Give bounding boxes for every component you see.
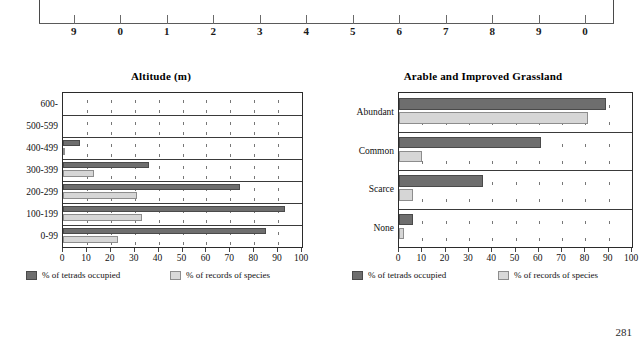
bar: [399, 137, 541, 149]
chart-legend: % of tetrads occupied % of records of sp…: [0, 270, 322, 288]
axis-tick-label: 0: [105, 25, 135, 37]
x-axis-tick: [134, 248, 135, 252]
grid-tick: [111, 176, 112, 179]
row-divider: [399, 132, 632, 133]
grid-tick: [87, 100, 88, 103]
grid-tick: [539, 182, 540, 185]
y-axis-category-label: None: [373, 223, 394, 233]
x-axis-tick-label: 10: [73, 253, 99, 263]
grid-tick: [254, 188, 255, 191]
grid-tick: [87, 110, 88, 113]
row-divider: [63, 203, 302, 204]
grid-tick: [206, 110, 207, 113]
grid-tick: [609, 199, 610, 202]
grid-tick: [585, 161, 586, 164]
grid-tick: [206, 198, 207, 201]
axis-tick: [213, 15, 214, 24]
grid-tick: [183, 198, 184, 201]
grid-tick: [422, 221, 423, 224]
axis-tick-label: 9: [524, 25, 554, 37]
grid-tick: [562, 144, 563, 147]
grid-tick: [562, 161, 563, 164]
grid-tick: [254, 154, 255, 157]
grid-tick: [254, 220, 255, 223]
grid-tick: [254, 100, 255, 103]
bar: [399, 228, 404, 240]
grid-tick: [278, 144, 279, 147]
axis-tick-label: 1: [152, 25, 182, 37]
bar: [63, 214, 142, 221]
grid-tick: [135, 144, 136, 147]
grid-tick: [254, 242, 255, 245]
grid-tick: [183, 220, 184, 223]
x-axis-tick: [515, 248, 516, 252]
grid-tick: [87, 144, 88, 147]
x-axis-tick-label: 100: [288, 253, 314, 263]
x-axis-tick-label: 50: [502, 253, 528, 263]
plot-area: AbundantCommonScarceNone: [398, 92, 633, 248]
axis-tick: [399, 15, 400, 24]
grid-tick: [585, 221, 586, 224]
legend-item-records: % of records of species: [170, 270, 270, 280]
grid-tick: [539, 161, 540, 164]
legend-label-tetrads: % of tetrads occupied: [368, 270, 446, 280]
grid-tick: [159, 198, 160, 201]
bar: [63, 140, 80, 147]
bar: [63, 170, 94, 177]
x-axis-tick: [277, 248, 278, 252]
chart-title: Arable and Improved Grassland: [322, 70, 644, 82]
grid-tick: [159, 100, 160, 103]
bar: [63, 228, 266, 235]
grid-tick: [135, 122, 136, 125]
legend-swatch-dark-icon: [352, 271, 363, 280]
grid-tick: [159, 144, 160, 147]
grid-tick: [492, 161, 493, 164]
x-axis-tick-label: 20: [97, 253, 123, 263]
axis-tick-label: 4: [291, 25, 321, 37]
axis-tick: [260, 15, 261, 24]
grid-tick: [111, 122, 112, 125]
grid-tick: [159, 154, 160, 157]
x-axis-tick: [421, 248, 422, 252]
grid-tick: [230, 176, 231, 179]
x-axis-tick-label: 0: [49, 253, 75, 263]
legend-label-records: % of records of species: [514, 270, 598, 280]
grid-tick: [609, 182, 610, 185]
grid-tick: [206, 242, 207, 245]
grid-tick: [609, 105, 610, 108]
grid-tick: [87, 154, 88, 157]
x-axis-tick: [301, 248, 302, 252]
chart-title: Altitude (m): [0, 70, 322, 82]
x-axis-tick-label: 90: [264, 253, 290, 263]
grid-tick: [492, 238, 493, 241]
x-axis-tick: [253, 248, 254, 252]
grid-tick: [87, 132, 88, 135]
grid-tick: [254, 122, 255, 125]
x-axis-tick-label: 60: [192, 253, 218, 263]
axis-tick-label: 8: [477, 25, 507, 37]
x-axis-tick-label: 80: [240, 253, 266, 263]
grid-tick: [278, 188, 279, 191]
bar: [399, 175, 483, 187]
x-axis-tick-label: 0: [385, 253, 411, 263]
bar: [399, 151, 422, 163]
axis-tick-label: 0: [570, 25, 600, 37]
row-divider: [63, 225, 302, 226]
grid-tick: [183, 154, 184, 157]
grid-tick: [516, 221, 517, 224]
grid-tick: [135, 176, 136, 179]
plot-area: 600-500-599400-499300-399200-299100-1990…: [62, 92, 303, 248]
legend-swatch-light-icon: [498, 271, 509, 280]
chart-altitude: Altitude (m) 600-500-599400-499300-39920…: [0, 70, 322, 300]
grid-tick: [159, 220, 160, 223]
grid-tick: [206, 122, 207, 125]
grid-tick: [469, 199, 470, 202]
legend-label-records: % of records of species: [186, 270, 270, 280]
x-axis-tick-label: 20: [432, 253, 458, 263]
grid-tick: [135, 132, 136, 135]
grid-tick: [278, 132, 279, 135]
grid-tick: [206, 100, 207, 103]
y-axis-category-label: 0-99: [41, 231, 58, 241]
x-axis-tick: [445, 248, 446, 252]
bar: [399, 189, 413, 201]
